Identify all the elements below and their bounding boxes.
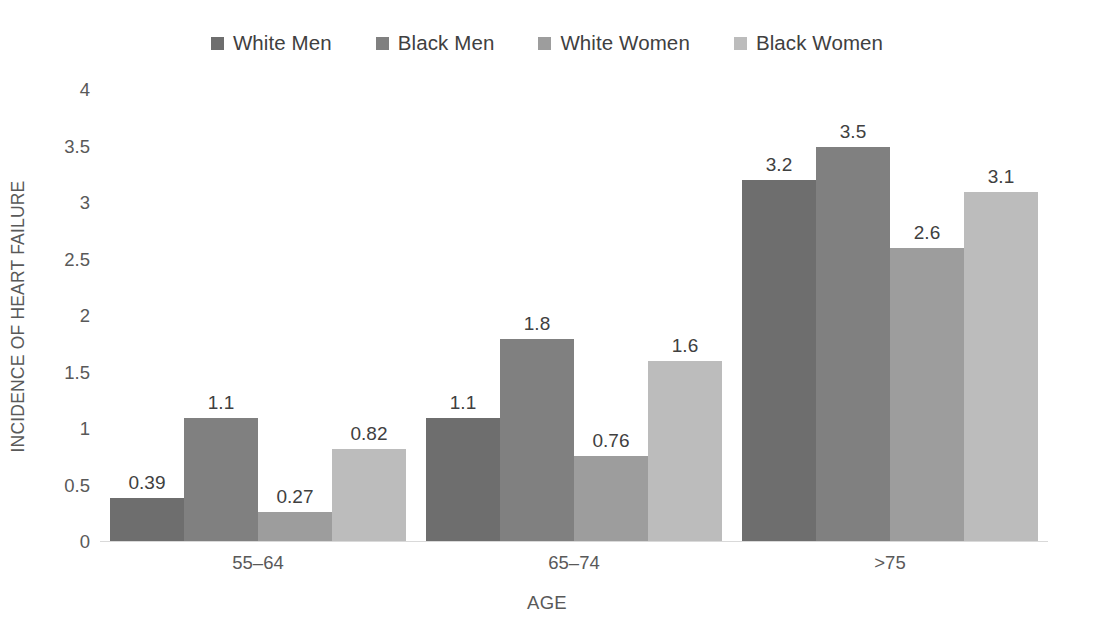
legend-label: Black Women — [756, 31, 883, 55]
x-axis-line — [100, 541, 1048, 542]
bar-slot: 1.1 — [426, 90, 500, 542]
bar-slot: 1.6 — [648, 90, 722, 542]
y-axis-tick-label: 2 — [80, 305, 90, 327]
bar-value-label: 0.39 — [129, 472, 166, 494]
bar-slot: 0.27 — [258, 90, 332, 542]
bar[interactable] — [964, 192, 1038, 542]
bar[interactable] — [742, 180, 816, 542]
bar-slot: 1.8 — [500, 90, 574, 542]
bar[interactable] — [184, 418, 258, 542]
legend-item[interactable]: Black Women — [734, 31, 883, 55]
y-axis-tick-label: 2.5 — [64, 249, 90, 271]
bar[interactable] — [332, 449, 406, 542]
y-axis-tick-label: 0.5 — [64, 475, 90, 497]
bar-value-label: 0.82 — [351, 423, 388, 445]
bar-group: 3.23.52.63.1 — [732, 90, 1048, 542]
bar-groups: 0.391.10.270.821.11.80.761.63.23.52.63.1 — [100, 90, 1048, 542]
legend-item[interactable]: Black Men — [376, 31, 495, 55]
bar-value-label: 0.27 — [277, 486, 314, 508]
bar[interactable] — [500, 339, 574, 542]
bar-slot: 3.5 — [816, 90, 890, 542]
y-axis-tick-label: 1.5 — [64, 362, 90, 384]
bar[interactable] — [110, 498, 184, 542]
bar-slot: 0.76 — [574, 90, 648, 542]
bar-slot: 3.2 — [742, 90, 816, 542]
bar[interactable] — [426, 418, 500, 542]
y-axis-tick-label: 4 — [80, 79, 90, 101]
legend-swatch-icon — [538, 37, 551, 50]
legend-swatch-icon — [211, 37, 224, 50]
bar-value-label: 3.2 — [766, 154, 792, 176]
bar[interactable] — [648, 361, 722, 542]
bar[interactable] — [258, 512, 332, 543]
y-axis-tick-label: 3 — [80, 192, 90, 214]
bar[interactable] — [574, 456, 648, 542]
y-axis-tick-label: 0 — [80, 531, 90, 553]
legend-swatch-icon — [734, 37, 747, 50]
bar-value-label: 3.5 — [840, 121, 866, 143]
x-axis-tick-labels: 55–6465–74>75 — [100, 552, 1048, 582]
bar-value-label: 1.8 — [524, 313, 550, 335]
bar-group: 1.11.80.761.6 — [416, 90, 732, 542]
bar-slot: 0.39 — [110, 90, 184, 542]
bar-slot: 3.1 — [964, 90, 1038, 542]
y-axis-tick-label: 3.5 — [64, 136, 90, 158]
legend-label: White Men — [233, 31, 332, 55]
y-axis-title: INCIDENCE OF HEART FAILURE — [6, 90, 32, 542]
y-axis-tick-labels: 00.511.522.533.54 — [44, 90, 90, 542]
bar[interactable] — [816, 147, 890, 543]
x-axis-title: AGE — [0, 592, 1094, 614]
plot-area: 0.391.10.270.821.11.80.761.63.23.52.63.1 — [100, 90, 1048, 542]
legend-label: Black Men — [398, 31, 495, 55]
bar-value-label: 3.1 — [988, 166, 1014, 188]
bar-slot: 2.6 — [890, 90, 964, 542]
legend-label: White Women — [560, 31, 689, 55]
x-axis-tick-label: 55–64 — [100, 552, 416, 582]
bar-value-label: 1.1 — [450, 392, 476, 414]
bar-value-label: 1.1 — [208, 392, 234, 414]
bar-slot: 0.82 — [332, 90, 406, 542]
bar-slot: 1.1 — [184, 90, 258, 542]
chart-legend: White MenBlack MenWhite WomenBlack Women — [0, 28, 1094, 58]
bar-value-label: 1.6 — [672, 335, 698, 357]
y-axis-tick-label: 1 — [80, 418, 90, 440]
legend-item[interactable]: White Women — [538, 31, 689, 55]
bar-value-label: 2.6 — [914, 222, 940, 244]
y-axis-title-text: INCIDENCE OF HEART FAILURE — [9, 180, 30, 452]
legend-item[interactable]: White Men — [211, 31, 332, 55]
x-axis-tick-label: >75 — [732, 552, 1048, 582]
legend-swatch-icon — [376, 37, 389, 50]
bar-group: 0.391.10.270.82 — [100, 90, 416, 542]
x-axis-tick-label: 65–74 — [416, 552, 732, 582]
bar-value-label: 0.76 — [593, 430, 630, 452]
bar[interactable] — [890, 248, 964, 542]
